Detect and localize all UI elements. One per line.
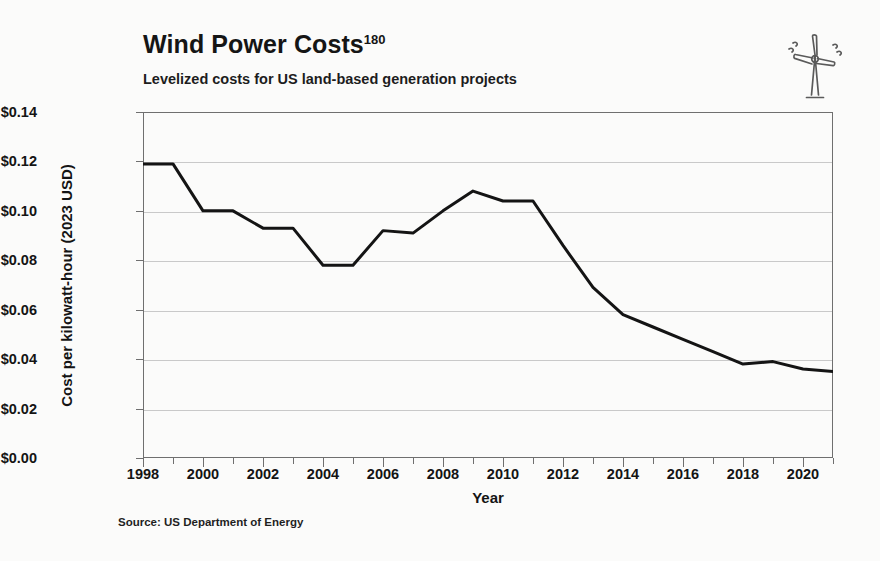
x-axis-tick-mark <box>173 458 174 464</box>
y-axis-tick-label: $0.04 <box>0 351 37 367</box>
x-axis-tick-mark <box>773 458 774 464</box>
x-axis-tick-mark <box>293 458 294 464</box>
x-axis-tick-label: 2020 <box>768 466 838 482</box>
y-axis-tick-mark <box>136 161 143 162</box>
y-axis-label: Cost per kilowatt-hour (2023 USD) <box>58 116 75 456</box>
page-title: Wind Power Costs180 <box>143 30 386 59</box>
wind-turbine-icon <box>775 24 855 102</box>
y-axis-tick-mark <box>136 211 143 212</box>
y-axis-tick-mark <box>136 112 143 113</box>
cost-line-path <box>143 164 833 372</box>
x-axis-label: Year <box>143 489 833 506</box>
x-axis-tick-mark <box>233 458 234 464</box>
x-axis-tick-mark <box>593 458 594 464</box>
y-axis-tick-mark <box>136 359 143 360</box>
title-text: Wind Power Costs <box>143 30 364 58</box>
y-axis-tick-mark <box>136 409 143 410</box>
x-axis-tick-mark <box>533 458 534 464</box>
y-axis-tick-label: $0.06 <box>0 302 37 318</box>
source-note: Source: US Department of Energy <box>118 516 303 528</box>
x-axis-tick-mark <box>833 458 834 464</box>
y-axis-tick-label: $0.10 <box>0 203 37 219</box>
y-axis-tick-mark <box>136 310 143 311</box>
x-axis-tick-mark <box>713 458 714 464</box>
x-axis-tick-mark <box>413 458 414 464</box>
y-axis-tick-mark <box>136 458 143 459</box>
y-axis-tick-label: $0.12 <box>0 153 37 169</box>
data-line-series <box>143 112 833 458</box>
wind-power-costs-figure: Wind Power Costs180 Levelized costs for … <box>0 0 880 561</box>
title-footnote-superscript: 180 <box>364 32 386 47</box>
y-axis-tick-label: $0.14 <box>0 104 37 120</box>
x-axis-tick-mark <box>653 458 654 464</box>
y-axis-tick-label: $0.02 <box>0 401 37 417</box>
y-axis-tick-label: $0.08 <box>0 252 37 268</box>
chart-subtitle: Levelized costs for US land-based genera… <box>143 71 517 87</box>
x-axis-tick-mark <box>353 458 354 464</box>
y-axis-tick-mark <box>136 260 143 261</box>
y-axis-tick-label: $0.00 <box>0 450 37 466</box>
x-axis-tick-mark <box>473 458 474 464</box>
